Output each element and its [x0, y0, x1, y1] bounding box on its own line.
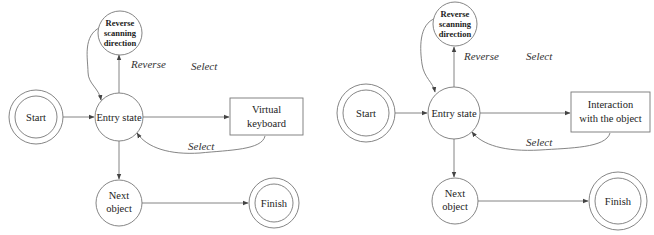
finish-node: Finish [589, 172, 647, 230]
action-label-1: Virtual [252, 104, 281, 115]
next-object-node: Next object [96, 180, 142, 226]
reverse-edge-label: Reverse [130, 58, 166, 70]
next-label-1: Next [445, 188, 465, 199]
right-diagram: Start Entry state Reverse scanning direc… [337, 2, 650, 230]
select-edge-label-return: Select [188, 140, 215, 152]
left-diagram: Start Entry state Reverse scanning direc… [9, 11, 303, 228]
reverse-label-1: Reverse [441, 9, 470, 19]
finish-label: Finish [605, 196, 632, 207]
reverse-label-3: direction [439, 29, 472, 39]
start-node: Start [337, 84, 395, 142]
start-node: Start [9, 90, 63, 144]
reverse-direction-node: Reverse scanning direction [433, 2, 477, 46]
entry-label: Entry state [431, 108, 477, 119]
action-label-2: with the object [579, 113, 641, 124]
select-edge-label-top: Select [191, 60, 218, 72]
finish-label: Finish [261, 198, 288, 209]
next-object-node: Next object [432, 178, 478, 224]
entry-label: Entry state [96, 112, 142, 123]
next-label-2: object [106, 203, 132, 214]
reverse-label-2: scanning [439, 19, 472, 29]
finish-node: Finish [249, 178, 299, 228]
reverse-label-3: direction [104, 38, 137, 48]
reverse-direction-node: Reverse scanning direction [98, 11, 142, 55]
action-label-1: Interaction [588, 99, 634, 110]
interaction-node: Interaction with the object [571, 92, 650, 132]
select-edge-label-return: Select [526, 136, 553, 148]
state-diagrams: Start Entry state Reverse scanning direc… [0, 0, 654, 235]
select-edge-label-top: Select [526, 50, 553, 62]
reverse-label-1: Reverse [106, 18, 135, 28]
next-label-1: Next [109, 190, 129, 201]
action-label-2: keyboard [247, 118, 287, 129]
next-label-2: object [442, 201, 468, 212]
entry-state-node: Entry state [428, 87, 480, 139]
entry-state-node: Entry state [95, 93, 143, 141]
start-label: Start [26, 112, 46, 123]
reverse-edge-label: Reverse [463, 50, 499, 62]
start-label: Start [356, 108, 376, 119]
virtual-keyboard-node: Virtual keyboard [230, 98, 303, 135]
reverse-label-2: scanning [104, 28, 137, 38]
